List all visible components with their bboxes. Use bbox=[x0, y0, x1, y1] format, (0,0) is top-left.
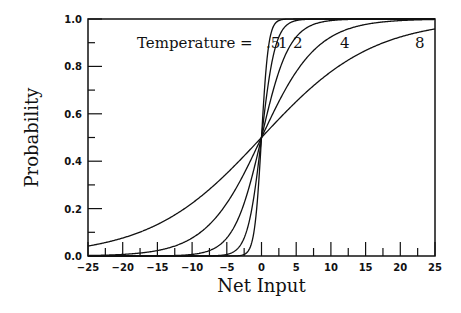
y-tick-label: 0.8 bbox=[64, 61, 82, 72]
y-tick-label: 0.6 bbox=[64, 109, 82, 120]
y-tick-label: 0.0 bbox=[64, 251, 82, 262]
temperature-curves bbox=[88, 19, 435, 256]
x-tick-label: 0 bbox=[258, 262, 265, 273]
temperature-annotation: Temperature = bbox=[137, 34, 253, 52]
x-tick-label: −5 bbox=[219, 262, 234, 273]
x-tick-label: 20 bbox=[393, 262, 407, 273]
x-axis-title: Net Input bbox=[217, 275, 306, 296]
x-tick-label: −10 bbox=[181, 262, 203, 273]
y-tick-label: 0.2 bbox=[64, 204, 82, 215]
curve-temperature-8 bbox=[88, 29, 435, 246]
x-tick-label: −15 bbox=[146, 262, 168, 273]
y-axis-title: Probability bbox=[21, 87, 42, 188]
x-tick-label: 15 bbox=[359, 262, 373, 273]
logistic-temperature-chart: −25−20−15−10−505101520250.00.20.40.60.81… bbox=[0, 0, 461, 313]
x-tick-label: 10 bbox=[324, 262, 338, 273]
x-tick-label: −25 bbox=[77, 262, 99, 273]
x-tick-label: 25 bbox=[428, 262, 442, 273]
y-tick-label: 0.4 bbox=[64, 156, 82, 167]
x-tick-label: −20 bbox=[112, 262, 134, 273]
curve-label: 2 bbox=[293, 34, 303, 52]
x-tick-label: 5 bbox=[293, 262, 300, 273]
curve-label: 4 bbox=[340, 34, 350, 52]
y-tick-label: 1.0 bbox=[64, 14, 82, 25]
curve-label: 8 bbox=[415, 34, 425, 52]
curve-label: 1 bbox=[278, 34, 288, 52]
